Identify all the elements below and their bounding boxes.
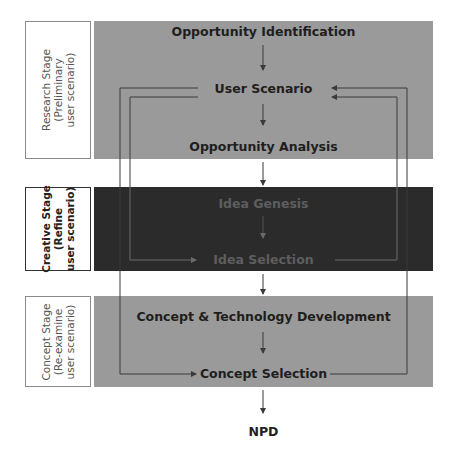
- step-opportunity-analysis: Opportunity Analysis: [94, 139, 433, 154]
- step-opportunity-identification: Opportunity Identification: [94, 24, 433, 39]
- step-idea-genesis: Idea Genesis: [94, 196, 433, 211]
- creative-stage-label: Creative Stage (Refine user scenario): [25, 187, 91, 271]
- step-user-scenario: User Scenario: [94, 81, 433, 96]
- step-concept-technology-development: Concept & Technology Development: [94, 309, 433, 324]
- concept-stage-title: Concept Stage: [40, 303, 52, 380]
- creative-stage-sub2: user scenario): [64, 185, 76, 273]
- research-stage-title: Research Stage: [40, 49, 52, 131]
- concept-stage-sub1: (Re-examine: [52, 303, 64, 380]
- research-stage-label: Research Stage (Preliminary user scenari…: [25, 21, 91, 159]
- research-stage-sub1: (Preliminary: [52, 49, 64, 131]
- concept-stage-label: Concept Stage (Re-examine user scenario): [25, 296, 91, 387]
- creative-stage-title: Creative Stage: [40, 185, 52, 273]
- step-concept-selection: Concept Selection: [94, 366, 433, 381]
- step-idea-selection: Idea Selection: [94, 252, 433, 267]
- output-npd: NPD: [94, 424, 433, 439]
- concept-stage-sub2: user scenario): [64, 303, 76, 380]
- research-stage-sub2: user scenario): [64, 49, 76, 131]
- creative-stage-sub1: (Refine: [52, 185, 64, 273]
